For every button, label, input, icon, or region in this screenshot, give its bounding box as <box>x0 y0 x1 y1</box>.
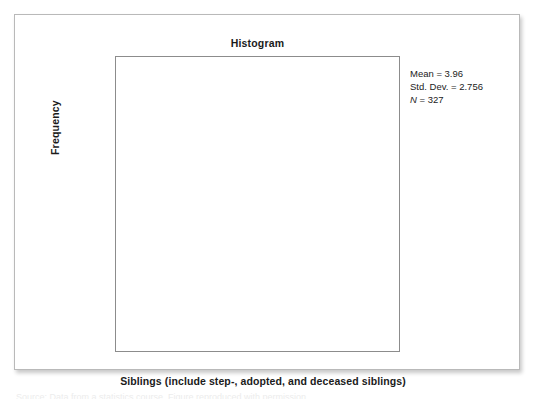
plot-area <box>115 56 400 352</box>
stat-stddev: Std. Dev. = 2.756 <box>410 80 483 93</box>
bars-layer <box>116 57 399 351</box>
statistics-annotation: Mean = 3.96 Std. Dev. = 2.756 N = 327 <box>410 67 483 106</box>
figure-card: Histogram Frequency Siblings (include st… <box>14 14 520 370</box>
stat-n: N = 327 <box>410 93 483 106</box>
cut-off-caption-text: Source: Data from a statistics course. F… <box>16 392 346 399</box>
stat-mean: Mean = 3.96 <box>410 67 483 80</box>
x-axis <box>115 352 400 374</box>
y-axis-title: Frequency <box>49 100 61 155</box>
y-axis <box>77 56 115 352</box>
stat-n-symbol: N <box>410 94 417 105</box>
x-axis-title: Siblings (include step-, adopted, and de… <box>83 375 443 387</box>
stat-n-value: = 327 <box>417 94 444 105</box>
chart-title: Histogram <box>115 37 400 49</box>
